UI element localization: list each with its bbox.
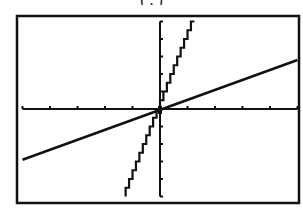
origin-marker bbox=[158, 106, 162, 114]
calculator-graph bbox=[0, 0, 303, 209]
